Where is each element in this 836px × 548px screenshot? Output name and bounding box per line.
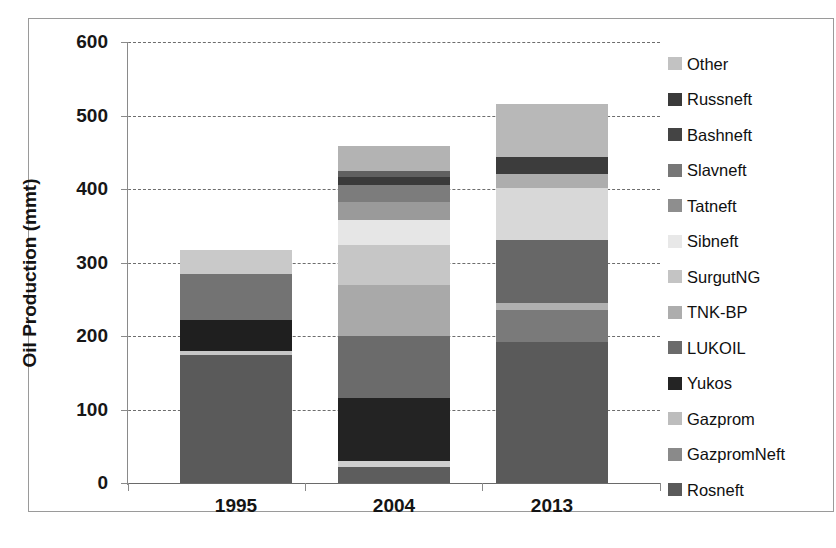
legend-label-gazprom: Gazprom: [687, 411, 755, 428]
legend-label-surgutng: SurgutNG: [687, 269, 760, 286]
legend-item-surgutng[interactable]: SurgutNG: [668, 259, 828, 295]
legend-label-rosneft: Rosneft: [687, 482, 744, 499]
bar-segment-2004-SurgutNG[interactable]: [338, 245, 450, 285]
bar-1995[interactable]: [180, 42, 292, 483]
bar-segment-2013-LUKOIL[interactable]: [496, 240, 608, 303]
legend-item-russneft[interactable]: Russneft: [668, 82, 828, 118]
bar-segment-1995-LUKOIL[interactable]: [180, 274, 292, 320]
y-tick-label-300: 300: [48, 253, 108, 272]
legend-label-gazpromneft: GazpromNeft: [687, 446, 785, 463]
bar-segment-2013-TNK-BP[interactable]: [496, 188, 608, 239]
x-tick-label-2004: 2004: [334, 495, 454, 517]
x-tick-mark-3: [660, 483, 661, 491]
legend-item-yukos[interactable]: Yukos: [668, 366, 828, 402]
legend-swatch-icon-russneft: [668, 93, 682, 106]
legend-item-lukoil[interactable]: LUKOIL: [668, 330, 828, 366]
x-tick-mark-0: [128, 483, 129, 491]
legend-item-gazprom[interactable]: Gazprom: [668, 401, 828, 437]
legend-label-lukoil: LUKOIL: [687, 340, 746, 357]
bar-segment-2004-LUKOIL[interactable]: [338, 336, 450, 398]
bar-segment-2004-Rosneft[interactable]: [338, 467, 450, 483]
legend-label-other: Other: [687, 56, 728, 73]
y-axis-title-container: Oil Production (mmt): [10, 40, 40, 490]
y-tick-label-600: 600: [48, 32, 108, 51]
legend-swatch-icon-bashneft: [668, 128, 682, 141]
y-tick-label-100: 100: [48, 400, 108, 419]
y-tick-mark-300: [121, 263, 129, 264]
bar-segment-2013-Other[interactable]: [496, 104, 608, 158]
chart-legend: OtherRussneftBashneftSlavneftTatneftSibn…: [668, 46, 828, 508]
chart-container: Oil Production (mmt) 6005004003002001000…: [0, 0, 836, 548]
bar-segment-2013-Bashneft[interactable]: [496, 157, 608, 173]
bar-segment-2004-Other[interactable]: [338, 146, 450, 171]
legend-label-tatneft: Tatneft: [687, 198, 737, 215]
x-tick-mark-2: [482, 483, 483, 491]
legend-item-tatneft[interactable]: Tatneft: [668, 188, 828, 224]
legend-label-slavneft: Slavneft: [687, 162, 747, 179]
x-tick-label-1995: 1995: [176, 495, 296, 517]
y-tick-label-400: 400: [48, 179, 108, 198]
bar-segment-1995-Rosneft[interactable]: [180, 355, 292, 483]
legend-item-slavneft[interactable]: Slavneft: [668, 153, 828, 189]
bar-segment-2013-Gazprom[interactable]: [496, 303, 608, 310]
bar-2004[interactable]: [338, 42, 450, 483]
y-tick-mark-600: [121, 42, 129, 43]
y-tick-label-500: 500: [48, 106, 108, 125]
bar-2013[interactable]: [496, 42, 608, 483]
legend-swatch-icon-gazprom: [668, 412, 682, 425]
legend-swatch-icon-tatneft: [668, 199, 682, 212]
x-tick-label-2013: 2013: [492, 495, 612, 517]
bar-segment-2013-Rosneft[interactable]: [496, 342, 608, 483]
bar-segment-2013-GazpromNeft[interactable]: [496, 310, 608, 342]
legend-item-rosneft[interactable]: Rosneft: [668, 472, 828, 508]
x-axis-line: [128, 483, 661, 484]
bar-segment-2013-SurgutNG[interactable]: [496, 174, 608, 189]
legend-swatch-icon-lukoil: [668, 341, 682, 354]
y-tick-mark-200: [121, 336, 129, 337]
y-axis-title: Oil Production (mmt): [19, 83, 41, 463]
y-tick-label-0: 0: [48, 473, 108, 492]
y-tick-mark-400: [121, 189, 129, 190]
legend-swatch-icon-tnk-bp: [668, 306, 682, 319]
legend-item-bashneft[interactable]: Bashneft: [668, 117, 828, 153]
legend-swatch-icon-slavneft: [668, 164, 682, 177]
bar-segment-1995-Other[interactable]: [180, 250, 292, 274]
bar-segment-2004-GazpromNeft[interactable]: [338, 461, 450, 467]
legend-label-bashneft: Bashneft: [687, 127, 752, 144]
y-tick-mark-100: [121, 410, 129, 411]
legend-item-sibneft[interactable]: Sibneft: [668, 224, 828, 260]
y-tick-mark-500: [121, 116, 129, 117]
legend-item-other[interactable]: Other: [668, 46, 828, 82]
legend-item-gazpromneft[interactable]: GazpromNeft: [668, 437, 828, 473]
legend-label-russneft: Russneft: [687, 91, 752, 108]
x-tick-mark-1: [305, 483, 306, 491]
bar-segment-1995-GazpromNeft[interactable]: [180, 351, 292, 355]
bar-segment-1995-Yukos[interactable]: [180, 320, 292, 352]
legend-swatch-icon-surgutng: [668, 270, 682, 283]
legend-swatch-icon-rosneft: [668, 483, 682, 496]
bar-segment-2004-Russneft[interactable]: [338, 171, 450, 177]
legend-label-tnk-bp: TNK-BP: [687, 304, 748, 321]
y-tick-labels: 6005004003002001000: [48, 0, 114, 548]
legend-item-tnk-bp[interactable]: TNK-BP: [668, 295, 828, 331]
legend-swatch-icon-sibneft: [668, 235, 682, 248]
bar-segment-2004-Slavneft[interactable]: [338, 185, 450, 201]
bar-segment-2004-Yukos[interactable]: [338, 398, 450, 461]
legend-swatch-icon-other: [668, 57, 682, 70]
legend-label-yukos: Yukos: [687, 375, 732, 392]
plot-area: [128, 42, 660, 483]
bar-segment-2004-TNK-BP[interactable]: [338, 285, 450, 336]
y-tick-label-200: 200: [48, 326, 108, 345]
legend-swatch-icon-yukos: [668, 377, 682, 390]
legend-label-sibneft: Sibneft: [687, 233, 738, 250]
bar-segment-2004-Bashneft[interactable]: [338, 177, 450, 186]
bar-segment-2004-Tatneft[interactable]: [338, 202, 450, 220]
legend-swatch-icon-gazpromneft: [668, 448, 682, 461]
y-tick-mark-0: [121, 483, 129, 484]
bar-segment-2004-Sibneft[interactable]: [338, 220, 450, 245]
